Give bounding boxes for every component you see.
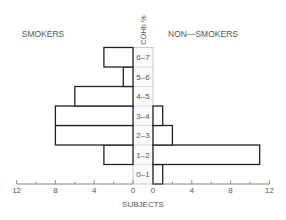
category-label: 0–1 xyxy=(136,170,150,179)
smokers-bars xyxy=(55,48,133,165)
non-smokers-label: NON—SMOKERS xyxy=(168,29,238,39)
cohb-axis-label: COHb % xyxy=(139,15,148,45)
x-tick-label: 12 xyxy=(265,186,274,195)
category-label: 3–4 xyxy=(136,112,150,121)
non-smokers-bar xyxy=(153,145,260,165)
smokers-bar xyxy=(55,106,133,126)
smokers-bar xyxy=(104,48,133,68)
category-label: 5–6 xyxy=(136,73,150,82)
smokers-label: SMOKERS xyxy=(22,29,65,39)
smokers-bar xyxy=(123,67,133,87)
non-smokers-bar xyxy=(153,165,163,185)
x-tick-label: 4 xyxy=(190,186,195,195)
smokers-bar xyxy=(55,126,133,146)
non-smokers-bars xyxy=(153,106,260,184)
non-smokers-bar xyxy=(153,106,163,126)
x-tick-label: 4 xyxy=(92,186,97,195)
x-tick-label: 0 xyxy=(151,186,156,195)
smokers-bar xyxy=(75,87,133,107)
x-axis-title: SUBJECTS xyxy=(122,200,164,209)
category-label: 6–7 xyxy=(136,53,150,62)
x-tick-label: 8 xyxy=(228,186,233,195)
category-label: 1–2 xyxy=(136,151,150,160)
x-tick-label: 0 xyxy=(131,186,136,195)
non-smokers-bar xyxy=(153,126,172,146)
x-tick-label: 12 xyxy=(12,186,21,195)
x-tick-label: 8 xyxy=(53,186,58,195)
pyramid-chart: 0–11–22–33–44–55–66–7 1284004812 SMOKERS… xyxy=(0,0,286,220)
category-label: 4–5 xyxy=(136,92,150,101)
smokers-bar xyxy=(104,145,133,165)
category-column: 0–11–22–33–44–55–66–7 xyxy=(133,48,153,185)
category-label: 2–3 xyxy=(136,131,150,140)
